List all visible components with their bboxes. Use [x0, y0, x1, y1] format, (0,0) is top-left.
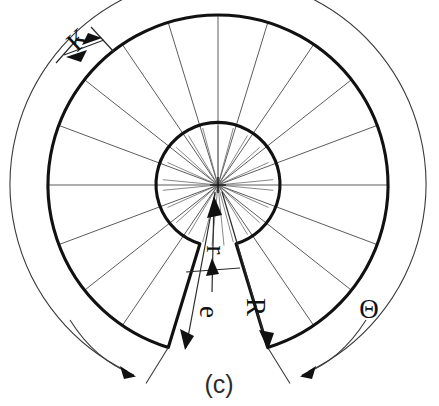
radial-line [85, 80, 219, 185]
label-gap-angle: e [194, 306, 224, 318]
theta-extension-right [268, 348, 290, 384]
hub-spoke [218, 128, 233, 185]
e-arrowhead [180, 329, 194, 350]
hub-spoke [218, 185, 260, 223]
figure-root: K r e R Θ (c) [0, 0, 439, 406]
r-inner-arrowhead-mid [206, 258, 219, 276]
label-outer-radius: R [241, 298, 271, 316]
radial-line [218, 23, 268, 186]
radial-line [218, 80, 352, 185]
theta-arrowhead-right [300, 366, 316, 379]
radial-line [58, 185, 218, 245]
radial-line [218, 125, 378, 185]
radial-line [168, 23, 218, 186]
r-leader-line [222, 192, 268, 348]
theta-arrowhead-left [120, 366, 136, 379]
radial-line [218, 185, 352, 290]
slotted-disc-diagram: K r e R Θ (c) [0, 0, 439, 406]
label-inner-radius: r [201, 246, 231, 255]
radial-line [218, 185, 378, 245]
label-total-angle: Θ [359, 294, 379, 324]
radial-line [85, 185, 219, 290]
hub-spoke [218, 147, 260, 185]
hub-spoke [203, 128, 218, 185]
figure-caption: (c) [204, 370, 233, 398]
r-outer-dimension [222, 192, 274, 350]
theta-extension-left [146, 348, 168, 384]
hub-spoke [189, 136, 219, 186]
r-inner-dimension [186, 196, 240, 292]
hub-spoke [176, 147, 218, 185]
radial-line [58, 125, 218, 185]
hub-spoke [218, 136, 248, 186]
